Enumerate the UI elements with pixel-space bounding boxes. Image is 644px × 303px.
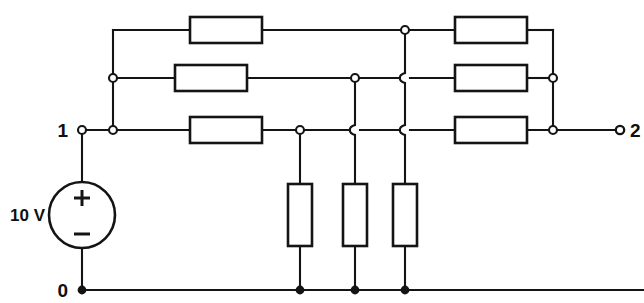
hop-center-over-bottom-row [350, 125, 355, 135]
node-terminal-1 [78, 126, 86, 134]
label-terminal-0: 0 [57, 280, 68, 301]
node-right-bus-middle [549, 74, 557, 82]
node-right-bus-bottom [549, 126, 557, 134]
node-terminal-0 [78, 286, 85, 293]
resistor-mid-left [175, 65, 247, 91]
resistor-bottom-left [190, 117, 262, 143]
label-terminal-1: 1 [57, 120, 68, 141]
voltage-source [49, 182, 115, 248]
circuit-diagram: 1 2 0 10 V [0, 0, 644, 303]
resistor-top-right [455, 17, 527, 43]
resistor-bottom-right [455, 117, 527, 143]
node-left-bus-middle [109, 74, 117, 82]
circuit-schematic-canvas: 1 2 0 10 V [0, 0, 644, 303]
hop-right-over-middle-row [400, 73, 405, 83]
node-ground-left [296, 286, 303, 293]
node-branch-right-top [401, 26, 409, 34]
resistor-vertical-right [393, 184, 417, 246]
node-branch-left-top [296, 126, 304, 134]
node-terminal-2 [616, 126, 624, 134]
hop-right-over-bottom-row [400, 125, 405, 135]
node-ground-right [401, 286, 408, 293]
resistor-vertical-left [288, 184, 312, 246]
label-terminal-2: 2 [630, 120, 641, 141]
label-source-value: 10 V [10, 206, 46, 225]
node-branch-center-top [351, 74, 359, 82]
node-ground-center [351, 286, 358, 293]
resistor-mid-right [455, 65, 527, 91]
resistor-top-left [190, 17, 262, 43]
node-markers [78, 26, 624, 294]
node-left-bus-bottom [109, 126, 117, 134]
resistor-vertical-center [343, 184, 367, 246]
